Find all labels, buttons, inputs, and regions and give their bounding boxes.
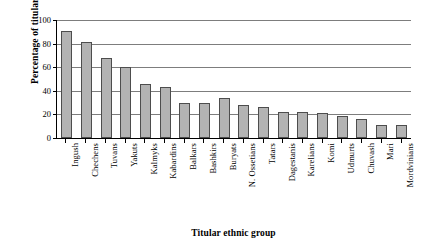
bar-slot <box>293 20 313 138</box>
bar <box>160 87 171 138</box>
x-label-slot: Buryats <box>214 143 234 221</box>
bar-slot <box>273 20 293 138</box>
bar-slot <box>352 20 372 138</box>
bar <box>317 113 328 138</box>
y-axis-tick-label: 20 <box>43 109 52 119</box>
bar <box>356 119 367 138</box>
bar-slot <box>195 20 215 138</box>
x-axis-tick-labels: IngushChechensTuvansYakutsKalmyksKabardi… <box>56 143 411 221</box>
x-label-slot: Komi <box>312 143 332 221</box>
bar-slot <box>155 20 175 138</box>
plot-area: 020406080100 <box>56 20 411 139</box>
y-axis-tick-label: 40 <box>43 86 52 96</box>
bar <box>219 98 230 138</box>
x-label-slot: Karelians <box>293 143 313 221</box>
bar-slot <box>372 20 392 138</box>
y-axis-tick-label: 0 <box>47 133 51 143</box>
bar <box>81 42 92 138</box>
bar <box>396 125 407 138</box>
x-label-slot: Dagestanis <box>273 143 293 221</box>
bar-slot <box>116 20 136 138</box>
bar <box>258 107 269 138</box>
bar-slot <box>332 20 352 138</box>
x-label-slot: Balkars <box>174 143 194 221</box>
bar-slot <box>77 20 97 138</box>
bar-slot <box>57 20 77 138</box>
x-label-slot: Kalmyks <box>135 143 155 221</box>
y-axis-tick-label: 80 <box>43 39 52 49</box>
bar <box>199 103 210 138</box>
x-label-slot: Kabardins <box>155 143 175 221</box>
bar-slot <box>313 20 333 138</box>
x-label-slot: Mordvinians <box>391 143 411 221</box>
x-label-slot: Tuvans <box>95 143 115 221</box>
bar <box>140 84 151 138</box>
x-axis-tick-label: Mordvinians <box>405 143 415 188</box>
x-label-slot: Yakuts <box>115 143 135 221</box>
bar-slot <box>96 20 116 138</box>
x-label-slot: N. Ossetians <box>233 143 253 221</box>
bar-slot <box>254 20 274 138</box>
bar <box>337 116 348 138</box>
bar <box>61 31 72 138</box>
bar-slot <box>175 20 195 138</box>
bar-slot <box>214 20 234 138</box>
x-label-slot: Chechens <box>76 143 96 221</box>
bar <box>179 103 190 138</box>
x-axis-title: Titular ethnic group <box>56 228 411 238</box>
x-label-slot: Bashkirs <box>194 143 214 221</box>
y-axis-tick-label: 60 <box>43 62 52 72</box>
bar-slot <box>391 20 411 138</box>
bar <box>376 125 387 138</box>
bar-slot <box>234 20 254 138</box>
x-label-slot: Tatars <box>253 143 273 221</box>
y-axis-tick-label: 100 <box>38 15 51 25</box>
x-label-slot: Chuvash <box>352 143 372 221</box>
bar <box>238 105 249 138</box>
bar-chart-figure: Percentage of titular support 0204060801… <box>0 0 421 251</box>
bar <box>297 112 308 138</box>
bar <box>120 67 131 138</box>
x-label-slot: Ingush <box>56 143 76 221</box>
bar <box>101 58 112 138</box>
bar-slot <box>136 20 156 138</box>
x-label-slot: Mari <box>372 143 392 221</box>
x-label-slot: Udmurts <box>332 143 352 221</box>
bar <box>278 112 289 138</box>
bars-container <box>57 20 411 138</box>
